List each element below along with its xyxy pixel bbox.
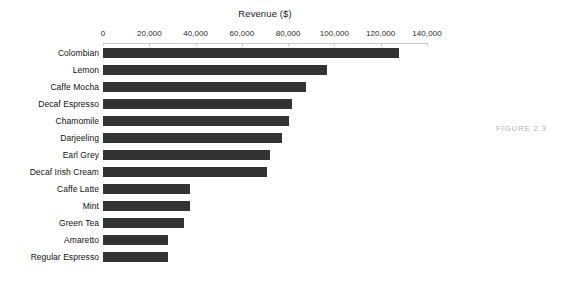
bar-row bbox=[103, 113, 427, 130]
x-axis-tick-label: 100,000 bbox=[320, 29, 349, 38]
bar-row bbox=[103, 215, 427, 232]
bar-row bbox=[103, 249, 427, 266]
figure-caption: FIGURE 2.3 bbox=[496, 124, 547, 133]
x-axis-tick-mark bbox=[103, 43, 104, 46]
bar-row bbox=[103, 232, 427, 249]
bar bbox=[103, 48, 399, 58]
x-axis-tick-mark bbox=[149, 43, 150, 46]
x-axis-tick-label: 60,000 bbox=[229, 29, 254, 38]
bar bbox=[103, 65, 327, 75]
y-axis-category-label: Amaretto bbox=[0, 232, 99, 249]
y-axis-category-label: Caffe Latte bbox=[0, 181, 99, 198]
x-axis-tick-label: 0 bbox=[101, 29, 106, 38]
bar-row bbox=[103, 45, 427, 62]
y-axis-category-label: Earl Grey bbox=[0, 147, 99, 164]
x-axis-tick-label: 120,000 bbox=[366, 29, 395, 38]
y-axis-category-label: Decaf Espresso bbox=[0, 96, 99, 113]
bar bbox=[103, 235, 168, 245]
y-axis-category-label-group: ColombianLemonCaffe MochaDecaf EspressoC… bbox=[0, 45, 99, 267]
x-axis-line bbox=[103, 43, 427, 44]
bar bbox=[103, 252, 168, 262]
x-axis-tick-label-group: 020,00040,00060,00080,000100,000120,0001… bbox=[0, 29, 567, 41]
x-axis-tick-mark bbox=[196, 43, 197, 46]
bar-row bbox=[103, 198, 427, 215]
bar-row bbox=[103, 147, 427, 164]
bar bbox=[103, 150, 270, 160]
bar bbox=[103, 99, 292, 109]
bar bbox=[103, 218, 184, 228]
y-axis-category-label: Decaf Irish Cream bbox=[0, 164, 99, 181]
x-axis-tick-label: 140,000 bbox=[412, 29, 441, 38]
x-axis-tick-mark bbox=[427, 43, 428, 46]
x-axis-tick-mark bbox=[334, 43, 335, 46]
bar bbox=[103, 133, 282, 143]
y-axis-category-label: Lemon bbox=[0, 62, 99, 79]
bar bbox=[103, 116, 289, 126]
y-axis-category-label: Chamomile bbox=[0, 113, 99, 130]
bar-row bbox=[103, 79, 427, 96]
y-axis-category-label: Caffe Mocha bbox=[0, 79, 99, 96]
y-axis-category-label: Mint bbox=[0, 198, 99, 215]
bar-row bbox=[103, 130, 427, 147]
x-axis-tick-mark bbox=[381, 43, 382, 46]
y-axis-category-label: Regular Espresso bbox=[0, 249, 99, 266]
chart-title: Revenue ($) bbox=[103, 8, 427, 19]
bar-chart-plot-area bbox=[103, 45, 427, 267]
bar bbox=[103, 184, 190, 194]
x-axis-tick-label: 40,000 bbox=[183, 29, 208, 38]
x-axis-tick-label: 20,000 bbox=[137, 29, 162, 38]
x-axis-tick-mark bbox=[288, 43, 289, 46]
bar-row bbox=[103, 96, 427, 113]
bar-row bbox=[103, 164, 427, 181]
bar-row bbox=[103, 62, 427, 79]
bar-row bbox=[103, 181, 427, 198]
y-axis-category-label: Colombian bbox=[0, 45, 99, 62]
bar bbox=[103, 82, 306, 92]
y-axis-category-label: Green Tea bbox=[0, 215, 99, 232]
bar bbox=[103, 167, 267, 177]
x-axis-tick-label: 80,000 bbox=[276, 29, 301, 38]
x-axis-tick-mark bbox=[242, 43, 243, 46]
y-axis-category-label: Darjeeling bbox=[0, 130, 99, 147]
figure-container: Revenue ($) 020,00040,00060,00080,000100… bbox=[0, 0, 567, 282]
bar bbox=[103, 201, 190, 211]
